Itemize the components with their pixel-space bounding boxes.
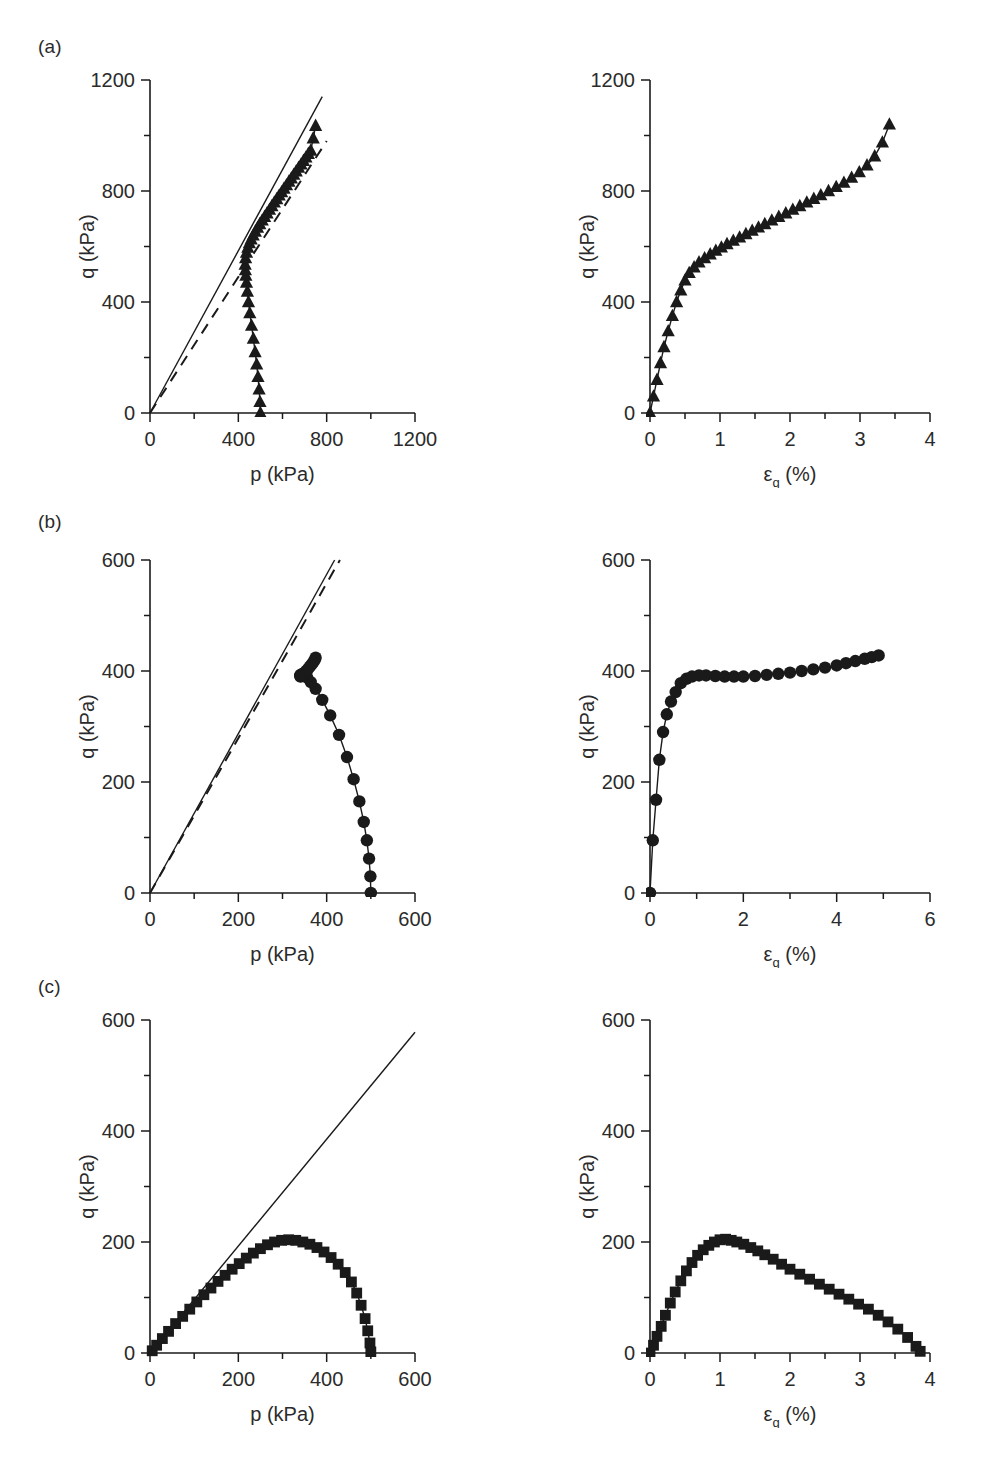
data-point-marker	[749, 670, 761, 682]
data-point-marker	[351, 1288, 362, 1299]
x-tick-label: 600	[398, 908, 431, 930]
y-axis-label: q (kPa)	[576, 214, 598, 278]
plot-a-right-stress-strain: 0123404008001200εq (%)q (kPa)	[500, 18, 1000, 488]
series-group	[643, 117, 896, 418]
series-line-0	[150, 97, 322, 413]
series-line-0	[650, 124, 889, 413]
plot-b-right-stress-strain: 02460200400600εq (%)q (kPa)	[500, 498, 1000, 968]
x-tick-label: 4	[831, 908, 842, 930]
data-point-marker	[666, 309, 679, 321]
series-group	[645, 1234, 926, 1359]
data-point-marker	[670, 1287, 681, 1298]
data-point-marker	[863, 1304, 874, 1315]
series-group	[644, 649, 885, 899]
data-point-marker	[654, 356, 667, 368]
data-point-marker	[361, 834, 373, 846]
y-axis-label: q (kPa)	[76, 694, 98, 758]
data-point-marker	[853, 1299, 864, 1310]
y-tick-label: 400	[102, 1120, 135, 1142]
x-tick-label: 2	[738, 908, 749, 930]
panel-b-right: 02460200400600εq (%)q (kPa)	[500, 498, 1000, 968]
y-tick-label: 800	[602, 180, 635, 202]
x-tick-label: 1200	[393, 428, 438, 450]
x-axis-label: εq (%)	[764, 1403, 817, 1428]
data-point-marker	[248, 345, 261, 357]
series-line-1	[150, 141, 327, 413]
data-point-marker	[660, 1310, 671, 1321]
data-point-marker	[307, 131, 320, 143]
x-tick-label: 400	[310, 908, 343, 930]
data-point-marker	[834, 1289, 845, 1300]
data-point-marker	[247, 331, 260, 343]
data-point-marker	[650, 794, 662, 806]
panel-c-right: 012340200400600εq (%)q (kPa)	[500, 958, 1000, 1428]
data-point-marker	[665, 1298, 676, 1309]
y-tick-label: 800	[102, 180, 135, 202]
data-point-marker	[356, 1300, 367, 1311]
y-tick-label: 1200	[591, 69, 636, 91]
data-point-marker	[794, 1269, 805, 1280]
data-point-marker	[647, 834, 659, 846]
series-group	[147, 1032, 415, 1357]
data-point-marker	[657, 726, 669, 738]
series-line-0	[650, 1239, 920, 1353]
data-point-marker	[358, 816, 370, 828]
x-tick-label: 200	[222, 1368, 255, 1390]
x-tick-label: 2	[784, 1368, 795, 1390]
series-line-1	[150, 560, 340, 893]
x-tick-label: 0	[644, 428, 655, 450]
x-tick-label: 6	[924, 908, 935, 930]
x-tick-label: 600	[398, 1368, 431, 1390]
data-point-marker	[324, 709, 336, 721]
data-point-marker	[915, 1346, 926, 1357]
y-axis-label: q (kPa)	[76, 1154, 98, 1218]
data-point-marker	[353, 795, 365, 807]
data-point-marker	[340, 1267, 351, 1278]
panel-row-a: (a) 0400800120004008001200p (kPa)q (kPa)…	[0, 18, 1002, 488]
series-line-0	[650, 655, 879, 893]
y-tick-label: 200	[102, 771, 135, 793]
x-tick-label: 200	[222, 908, 255, 930]
x-axis-label: p (kPa)	[250, 1403, 314, 1425]
data-point-marker	[653, 754, 665, 766]
x-tick-label: 3	[854, 428, 865, 450]
plot-area: 02004006000200400600p (kPa)q (kPa)	[76, 1009, 432, 1425]
data-point-marker	[643, 406, 656, 418]
data-point-marker	[333, 729, 345, 741]
data-point-marker	[670, 295, 683, 307]
y-axis-label: q (kPa)	[76, 214, 98, 278]
y-tick-label: 400	[602, 291, 635, 313]
data-point-marker	[795, 665, 807, 677]
y-tick-label: 0	[124, 402, 135, 424]
x-tick-label: 0	[144, 428, 155, 450]
data-point-marker	[760, 669, 772, 681]
data-point-marker	[242, 295, 255, 307]
x-tick-label: 2	[784, 428, 795, 450]
data-point-marker	[647, 389, 660, 401]
y-tick-label: 400	[602, 1120, 635, 1142]
plot-area: 02004006000200400600p (kPa)q (kPa)	[76, 549, 432, 965]
plot-area: 012340200400600εq (%)q (kPa)	[576, 1009, 936, 1428]
data-point-marker	[362, 1325, 373, 1336]
y-axis-label: q (kPa)	[576, 694, 598, 758]
data-point-marker	[873, 1310, 884, 1321]
plot-c-left-stress-path: 02004006000200400600p (kPa)q (kPa)	[0, 958, 500, 1428]
x-tick-label: 0	[144, 1368, 155, 1390]
plot-c-right-stress-strain: 012340200400600εq (%)q (kPa)	[500, 958, 1000, 1428]
y-tick-label: 200	[602, 771, 635, 793]
data-point-marker	[347, 773, 359, 785]
panel-c-left: 02004006000200400600p (kPa)q (kPa)	[0, 958, 500, 1428]
y-axis-label: q (kPa)	[576, 1154, 598, 1218]
series-line-1	[152, 1240, 371, 1352]
x-tick-label: 4	[924, 428, 935, 450]
panel-row-c: (c) 02004006000200400600p (kPa)q (kPa) 0…	[0, 958, 1002, 1428]
plot-area: 0400800120004008001200p (kPa)q (kPa)	[76, 69, 437, 485]
data-point-marker	[883, 117, 896, 129]
y-tick-label: 0	[124, 882, 135, 904]
y-tick-label: 0	[624, 402, 635, 424]
data-point-marker	[876, 135, 889, 147]
y-tick-label: 400	[602, 660, 635, 682]
x-tick-label: 400	[310, 1368, 343, 1390]
data-point-marker	[656, 1321, 667, 1332]
data-point-marker	[243, 306, 256, 318]
